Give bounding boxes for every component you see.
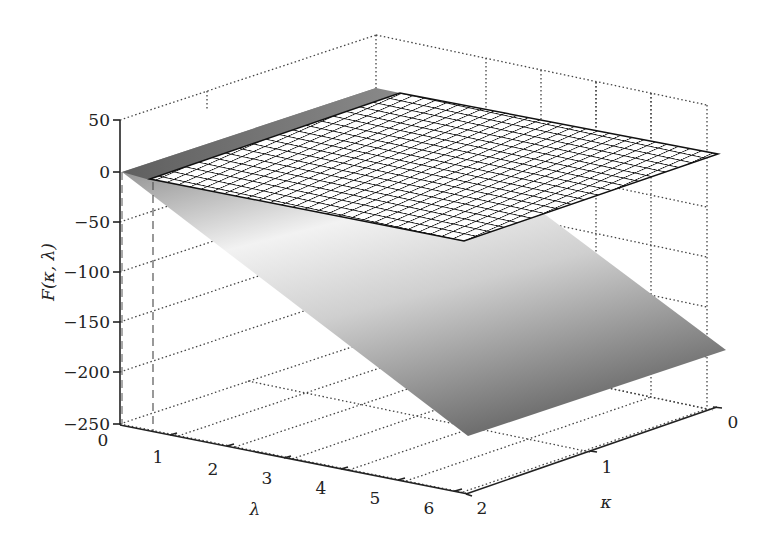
lambda-tick-labels: 0 1 2 3 4 5 6 (98, 430, 435, 518)
svg-text:5: 5 (370, 488, 381, 508)
kappa-axis-label: κ (599, 492, 611, 512)
svg-text:6: 6 (424, 498, 435, 518)
svg-text:1: 1 (602, 457, 613, 477)
svg-text:0: 0 (99, 162, 110, 182)
lambda-axis (120, 425, 468, 494)
svg-text:4: 4 (316, 478, 327, 498)
svg-text:−200: −200 (63, 362, 110, 382)
svg-text:−100: −100 (63, 262, 110, 282)
svg-text:0: 0 (98, 430, 109, 450)
z-axis-label: F(κ, λ) (38, 243, 58, 302)
svg-text:−50: −50 (74, 212, 110, 232)
svg-text:2: 2 (477, 498, 488, 518)
lambda-axis-label: λ (249, 499, 261, 519)
z-axis (113, 120, 120, 425)
z-tick-labels: 50 0 −50 −100 −150 −200 −250 (63, 110, 110, 434)
svg-text:50: 50 (88, 110, 110, 130)
svg-text:1: 1 (153, 447, 164, 467)
svg-text:3: 3 (262, 468, 273, 488)
svg-text:2: 2 (208, 459, 219, 479)
surface-plot-figure: 50 0 −50 −100 −150 −200 −250 F(κ, λ) 0 1… (0, 0, 776, 543)
svg-text:0: 0 (728, 412, 739, 432)
svg-text:−150: −150 (63, 312, 110, 332)
